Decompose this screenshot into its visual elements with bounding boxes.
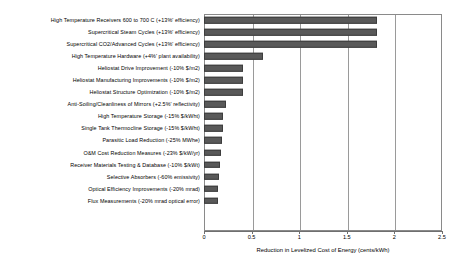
bar-row: Flux Measurements (-20% mrad optical err… bbox=[0, 195, 453, 207]
bar-track bbox=[203, 74, 441, 86]
bar-row: Optical Efficiency Improvements (-20% mr… bbox=[0, 183, 453, 195]
category-label: Optical Efficiency Improvements (-20% mr… bbox=[0, 186, 203, 192]
category-label: Supercritical Steam Cycles (+13%' effici… bbox=[0, 29, 203, 35]
bar-track bbox=[203, 86, 441, 98]
category-label: High Temperature Hardware (+4%' plant av… bbox=[0, 53, 203, 59]
bar-track bbox=[203, 122, 441, 134]
category-label: Heliostat Drive Improvement (-10% $/m2) bbox=[0, 65, 203, 71]
bar-track bbox=[203, 26, 441, 38]
bar-track bbox=[203, 110, 441, 122]
category-label: Supercritical CO2/Advanced Cycles (+13%'… bbox=[0, 41, 203, 47]
category-label: Flux Measurements (-20% mrad optical err… bbox=[0, 198, 203, 204]
x-tick-label-0: 0 bbox=[202, 234, 205, 241]
category-label: O&M Cost Reduction Measures (-23% $/kW/y… bbox=[0, 150, 203, 156]
bar-track bbox=[203, 50, 441, 62]
category-label: High Temperature Receivers 600 to 700 C … bbox=[0, 17, 203, 23]
bar-row: High Temperature Storage (-15% $/kWht) bbox=[0, 110, 453, 122]
bar bbox=[204, 197, 218, 204]
bar-row: Single Tank Thermocline Storage (-15% $/… bbox=[0, 122, 453, 134]
bar-row: High Temperature Hardware (+4%' plant av… bbox=[0, 50, 453, 62]
bar-track bbox=[203, 98, 441, 110]
bar bbox=[204, 65, 243, 72]
bar bbox=[204, 101, 226, 108]
bar bbox=[204, 113, 223, 120]
x-axis-title: Reduction in Levelized Cost of Energy (c… bbox=[204, 246, 442, 254]
category-label: Receiver Materials Testing & Database (-… bbox=[0, 162, 203, 168]
bar-row: Heliostat Manufacturing Improvements (-1… bbox=[0, 74, 453, 86]
bar-row: Selective Absorbers (-60% emissivity) bbox=[0, 171, 453, 183]
bar-track bbox=[203, 183, 441, 195]
bar bbox=[204, 137, 222, 144]
bar bbox=[204, 173, 219, 180]
bar bbox=[204, 53, 263, 60]
bar-row: Supercritical Steam Cycles (+13%' effici… bbox=[0, 26, 453, 38]
bar-rows: High Temperature Receivers 600 to 700 C … bbox=[0, 14, 453, 231]
bar-row: Heliostat Structure Optimization (-10% $… bbox=[0, 86, 453, 98]
bar bbox=[204, 29, 377, 36]
category-label: High Temperature Storage (-15% $/kWht) bbox=[0, 113, 203, 119]
bar bbox=[204, 17, 377, 24]
category-label: Parasitic Load Reduction (-25% MWhe) bbox=[0, 137, 203, 143]
bar-track bbox=[203, 195, 441, 207]
bar-row: High Temperature Receivers 600 to 700 C … bbox=[0, 14, 453, 26]
bar-row: Receiver Materials Testing & Database (-… bbox=[0, 159, 453, 171]
category-label: Anti-Soiling/Cleanliness of Mirrors (+2.… bbox=[0, 101, 203, 107]
x-tick-label-0.5: 0.5 bbox=[248, 234, 256, 241]
bar-row: Anti-Soiling/Cleanliness of Mirrors (+2.… bbox=[0, 98, 453, 110]
category-label: Heliostat Manufacturing Improvements (-1… bbox=[0, 77, 203, 83]
x-axis-line bbox=[204, 231, 442, 232]
bar bbox=[204, 41, 377, 48]
bar bbox=[204, 185, 218, 192]
x-tick-label-2.5: 2.5 bbox=[438, 234, 446, 241]
x-tick-label-1.5: 1.5 bbox=[343, 234, 351, 241]
category-label: Heliostat Structure Optimization (-10% $… bbox=[0, 89, 203, 95]
bar-row: Parasitic Load Reduction (-25% MWhe) bbox=[0, 134, 453, 146]
bar bbox=[204, 161, 220, 168]
bar bbox=[204, 89, 243, 96]
bar-track bbox=[203, 159, 441, 171]
bar-track bbox=[203, 134, 441, 146]
bar-track bbox=[203, 38, 441, 50]
bar-track bbox=[203, 14, 441, 26]
bar-track bbox=[203, 147, 441, 159]
x-tick-label-1: 1 bbox=[298, 234, 301, 241]
bar bbox=[204, 149, 221, 156]
bar-chart: High Temperature Receivers 600 to 700 C … bbox=[0, 0, 453, 270]
bar-row: O&M Cost Reduction Measures (-23% $/kW/y… bbox=[0, 147, 453, 159]
category-label: Selective Absorbers (-60% emissivity) bbox=[0, 174, 203, 180]
bar bbox=[204, 77, 243, 84]
x-tick-label-2: 2 bbox=[393, 234, 396, 241]
bar-track bbox=[203, 62, 441, 74]
bar-track bbox=[203, 171, 441, 183]
bar-row: Supercritical CO2/Advanced Cycles (+13%'… bbox=[0, 38, 453, 50]
category-label: Single Tank Thermocline Storage (-15% $/… bbox=[0, 125, 203, 131]
bar bbox=[204, 125, 223, 132]
bar-row: Heliostat Drive Improvement (-10% $/m2) bbox=[0, 62, 453, 74]
